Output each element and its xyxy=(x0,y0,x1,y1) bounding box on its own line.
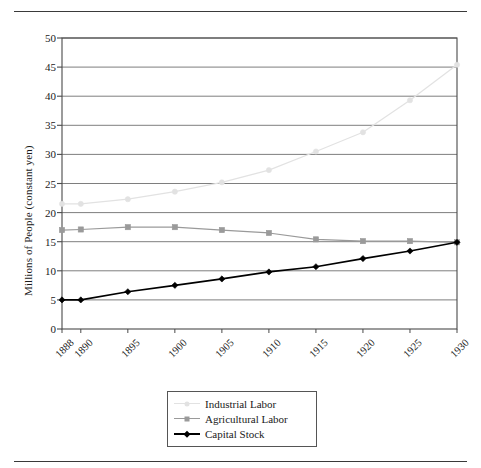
data-point-marker xyxy=(266,168,271,173)
data-point-marker xyxy=(313,237,318,242)
figure: ·· Millions of People (constant yen) 051… xyxy=(0,0,481,468)
legend-item-label: Agricultural Labor xyxy=(205,413,288,425)
data-point-marker xyxy=(266,269,272,275)
y-tick-marks xyxy=(57,38,62,329)
data-point-marker xyxy=(59,201,64,206)
x-tick-marks xyxy=(62,329,457,333)
data-point-marker xyxy=(407,239,412,244)
data-point-marker xyxy=(266,230,271,235)
data-point-marker xyxy=(219,180,224,185)
data-point-marker xyxy=(172,282,178,288)
chart-legend: Industrial LaborAgricultural LaborCapita… xyxy=(167,391,317,447)
legend-item-agricultural-labor[interactable]: Agricultural Labor xyxy=(174,411,310,426)
legend-item-industrial-labor[interactable]: Industrial Labor xyxy=(174,396,310,411)
legend-marker-diamond-icon xyxy=(184,430,190,436)
data-point-marker xyxy=(454,62,459,67)
data-point-marker xyxy=(125,289,131,295)
data-point-marker xyxy=(407,248,413,254)
data-point-marker xyxy=(172,189,177,194)
data-point-marker xyxy=(125,225,130,230)
legend-marker-circle-icon xyxy=(185,401,190,406)
data-point-marker xyxy=(78,297,84,303)
data-point-marker xyxy=(59,227,64,232)
legend-item-label: Capital Stock xyxy=(205,428,265,440)
data-point-marker xyxy=(59,297,65,303)
data-point-marker xyxy=(125,197,130,202)
data-point-marker xyxy=(172,225,177,230)
legend-marker-square-icon xyxy=(185,416,190,421)
data-point-marker xyxy=(407,98,412,103)
series-line xyxy=(62,65,457,204)
legend-swatch-diamond-icon xyxy=(174,428,200,439)
legend-item-capital-stock[interactable]: Capital Stock xyxy=(174,426,310,441)
series-line xyxy=(62,227,457,242)
data-point-marker xyxy=(360,130,365,135)
grid-lines xyxy=(62,38,457,300)
legend-swatch-square-icon xyxy=(174,413,200,424)
series-industrial-labor xyxy=(59,62,459,206)
data-point-marker xyxy=(313,264,319,270)
data-point-marker xyxy=(313,149,318,154)
legend-item-label: Industrial Labor xyxy=(205,398,276,410)
data-point-marker xyxy=(360,255,366,261)
data-point-marker xyxy=(360,239,365,244)
legend-swatch-circle-icon xyxy=(174,398,200,409)
data-point-marker xyxy=(219,227,224,232)
bottom-divider-rule xyxy=(14,461,467,462)
data-point-marker xyxy=(78,227,83,232)
data-point-marker xyxy=(219,276,225,282)
data-point-marker xyxy=(78,201,83,206)
